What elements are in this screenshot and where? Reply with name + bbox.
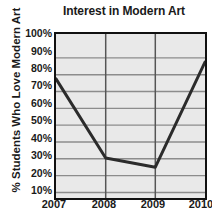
y-tick-label: 60% [18,97,52,109]
x-axis-tick-labels: 2007 2008 2009 2010 [0,198,212,221]
y-tick-label: 10% [18,184,52,196]
y-tick-label: 90% [18,45,52,57]
chart-figure: Interest in Modern Art % Students Who Lo… [0,0,212,221]
y-tick-label: 80% [18,62,52,74]
y-tick-label: 70% [18,79,52,91]
vertical-gridlines [106,34,156,198]
x-tick-label: 2007 [32,198,76,210]
y-tick-label: 20% [18,167,52,179]
data-line-series [56,62,205,167]
plot-area [54,32,207,200]
plot-svg [56,34,205,198]
y-tick-label: 100% [18,27,52,39]
x-tick-label: 2008 [82,198,126,210]
horizontal-gridlines [56,58,205,193]
x-tick-label: 2010 [179,198,212,210]
y-tick-label: 40% [18,132,52,144]
chart-title: Interest in Modern Art [40,4,208,18]
y-tick-label: 50% [18,114,52,126]
y-axis-tick-labels: 100% 90% 80% 70% 60% 50% 40% 30% 20% 10% [16,0,52,221]
y-tick-label: 30% [18,149,52,161]
x-tick-label: 2009 [131,198,175,210]
